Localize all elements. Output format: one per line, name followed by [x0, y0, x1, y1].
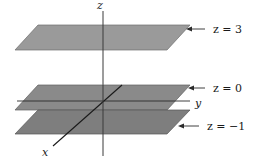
- y-axis-label: y: [194, 97, 202, 110]
- callout-label-z-3: z = 3: [213, 23, 242, 36]
- diagram-canvas: z y x z = 3 z = 0 z = −1: [0, 0, 261, 164]
- callout-label-z-minus-1: z = −1: [207, 120, 245, 133]
- callout-z-minus-1: z = −1: [178, 120, 245, 133]
- callout-label-z-0: z = 0: [213, 82, 242, 95]
- plane-diagram-figure: z y x z = 3 z = 0 z = −1: [0, 0, 261, 164]
- z-axis-label: z: [96, 0, 103, 12]
- callout-z-3: z = 3: [186, 23, 242, 36]
- callout-z-0: z = 0: [188, 82, 242, 95]
- callout-arrowhead-z-minus-1: [178, 123, 184, 128]
- x-axis-label: x: [42, 146, 49, 159]
